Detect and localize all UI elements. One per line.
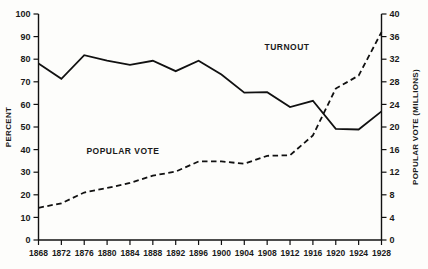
x-tick-label: 1904 — [235, 248, 254, 258]
x-tick-label: 1920 — [326, 248, 345, 258]
left-tick-label: 20 — [20, 190, 30, 200]
turnout-series-label: TURNOUT — [265, 42, 310, 52]
right-tick-label: 24 — [390, 100, 400, 110]
left-tick-label: 90 — [20, 32, 30, 42]
x-tick-label: 1876 — [75, 248, 94, 258]
right-tick-label: 40 — [390, 9, 400, 19]
x-tick-label: 1900 — [212, 248, 231, 258]
chart-container: 0102030405060708090100 04812162024283236… — [0, 0, 428, 269]
x-tick-label: 1896 — [189, 248, 208, 258]
x-tick-label: 1868 — [29, 248, 48, 258]
left-tick-label: 60 — [20, 100, 30, 110]
x-tick-label: 1892 — [166, 248, 185, 258]
left-tick-label: 40 — [20, 145, 30, 155]
x-tick-label: 1912 — [281, 248, 300, 258]
x-tick-label: 1884 — [121, 248, 140, 258]
left-tick-label: 30 — [20, 167, 30, 177]
right-tick-label: 36 — [390, 32, 400, 42]
right-tick-label: 20 — [390, 122, 400, 132]
x-tick-label: 1928 — [372, 248, 391, 258]
x-tick-label: 1872 — [52, 248, 71, 258]
popular-vote-series-label: POPULAR VOTE — [86, 146, 159, 156]
right-tick-label: 32 — [390, 54, 400, 64]
right-tick-label: 4 — [390, 213, 395, 223]
right-tick-label: 12 — [390, 167, 400, 177]
right-axis-title: POPULAR VOTE (MILLIONS) — [411, 69, 420, 185]
x-tick-label: 1880 — [98, 248, 117, 258]
left-tick-label: 80 — [20, 54, 30, 64]
left-tick-label: 70 — [20, 77, 30, 87]
x-tick-label: 1888 — [143, 248, 162, 258]
right-tick-label: 16 — [390, 145, 400, 155]
x-tick-label: 1908 — [258, 248, 277, 258]
voter-turnout-chart: 0102030405060708090100 04812162024283236… — [0, 0, 428, 269]
x-tick-label: 1924 — [349, 248, 368, 258]
left-tick-label: 0 — [25, 235, 30, 245]
left-tick-label: 50 — [20, 122, 30, 132]
chart-background — [0, 0, 428, 269]
right-tick-label: 28 — [390, 77, 400, 87]
left-axis-title: PERCENT — [4, 107, 13, 147]
left-tick-label: 100 — [15, 9, 30, 19]
x-tick-label: 1916 — [303, 248, 322, 258]
left-tick-label: 10 — [20, 213, 30, 223]
right-tick-label: 8 — [390, 190, 395, 200]
right-tick-label: 0 — [390, 235, 395, 245]
